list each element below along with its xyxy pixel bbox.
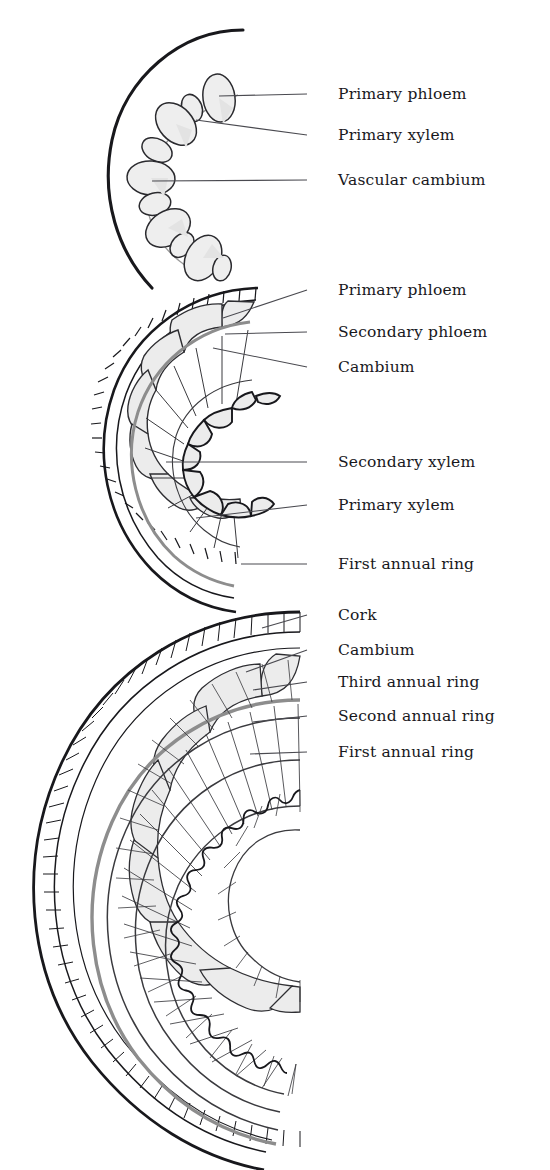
- label-cambium: Cambium: [338, 641, 415, 659]
- leader-line-l13: [253, 716, 307, 722]
- label-primary-xylem: Primary xylem: [338, 496, 455, 514]
- stage-primary-growth: [108, 30, 243, 288]
- label-cambium: Cambium: [338, 358, 415, 376]
- label-second-annual-ring: Second annual ring: [338, 707, 495, 725]
- label-vascular-cambium: Vascular cambium: [338, 171, 486, 189]
- leader-line-l5: [225, 332, 307, 334]
- label-primary-xylem: Primary xylem: [338, 126, 455, 144]
- label-cork: Cork: [338, 606, 377, 624]
- leader-line-l6: [213, 348, 307, 367]
- leader-line-l2: [196, 120, 307, 135]
- stage-third-year-growth: [34, 612, 300, 1170]
- diagram-canvas: Primary phloemPrimary xylemVascular camb…: [0, 0, 550, 1170]
- label-first-annual-ring: First annual ring: [338, 743, 474, 761]
- label-first-annual-ring: First annual ring: [338, 555, 474, 573]
- primary-xylem-lobes-stage2: [183, 392, 274, 517]
- label-secondary-phloem: Secondary phloem: [338, 323, 487, 341]
- stage-first-year-growth: [91, 288, 280, 612]
- label-secondary-xylem: Secondary xylem: [338, 453, 475, 471]
- leader-line-l14: [250, 752, 307, 754]
- primary-xylem-lobes-top-stage2: [256, 393, 280, 404]
- label-primary-phloem: Primary phloem: [338, 85, 467, 103]
- label-primary-phloem: Primary phloem: [338, 281, 467, 299]
- label-third-annual-ring: Third annual ring: [338, 673, 480, 691]
